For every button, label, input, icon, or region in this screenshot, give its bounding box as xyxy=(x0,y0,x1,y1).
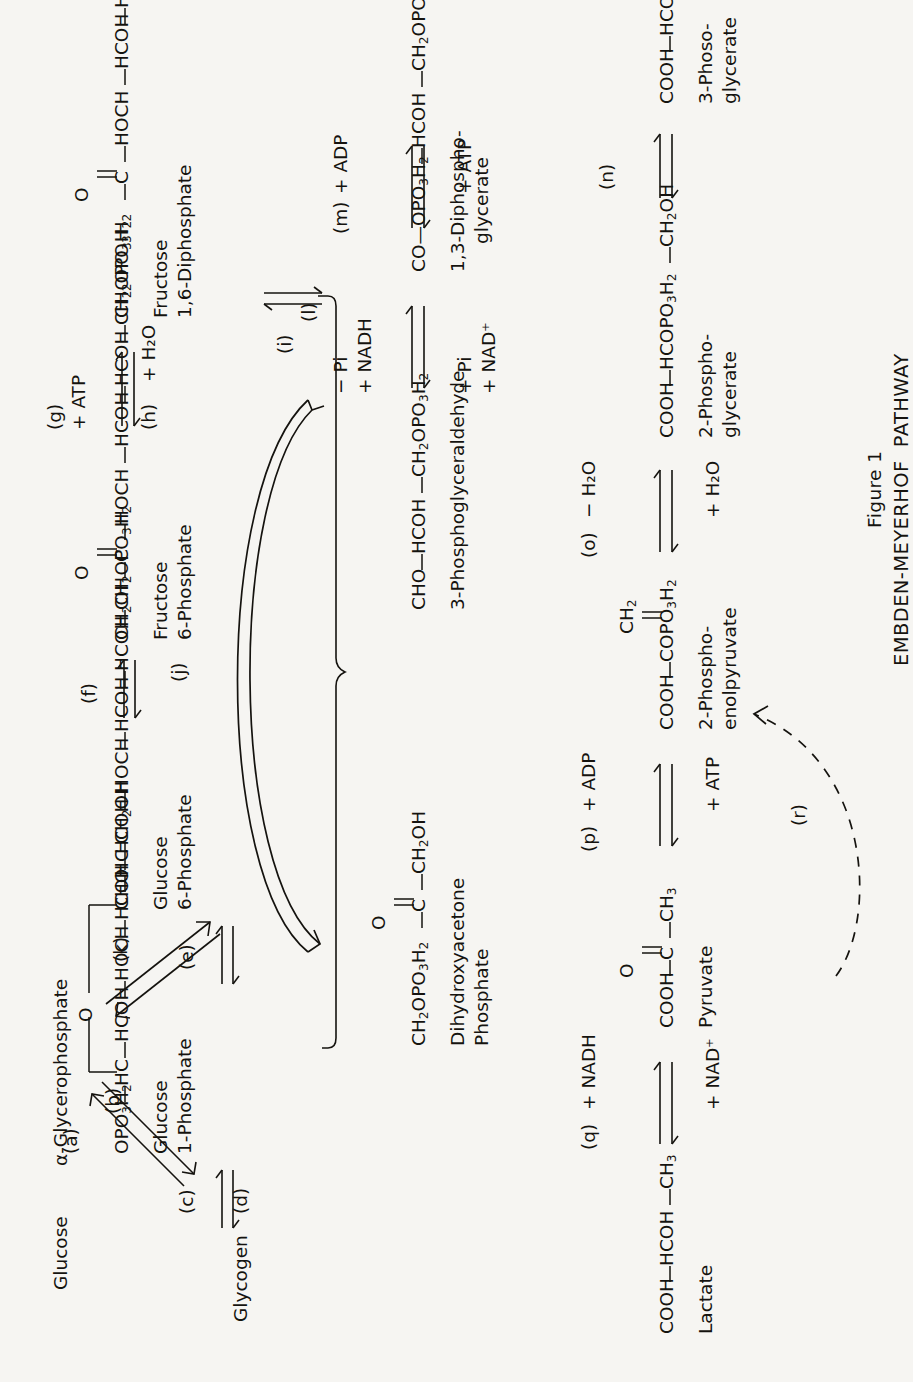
compound-label-g3p-line1: 3-Phosphoglyceraldehyde xyxy=(449,371,468,610)
reaction-label-b: (b) xyxy=(104,1088,123,1114)
group-copo3h2: COPO3H2 xyxy=(658,579,679,662)
reaction-label-d: (d) xyxy=(232,1188,251,1214)
reaction-cofactor-o-bottom: + H₂O xyxy=(704,461,723,518)
compound-label-pg2-line2: glycerate xyxy=(721,351,740,438)
reaction-label-n: (n) xyxy=(598,164,617,190)
compound-label-glycogen: Glycogen xyxy=(232,1235,251,1322)
reaction-label-h: (h) xyxy=(140,404,159,430)
reaction-label-j: (j) xyxy=(170,662,189,682)
reaction-cofactor-l-bottom1: + Pi xyxy=(456,357,475,394)
group-ch2oh: CH2OH xyxy=(410,811,431,874)
arrow-a-b-diagonal xyxy=(62,1058,192,1198)
reaction-cofactor-q-top: + NADH xyxy=(580,1034,599,1110)
arrow-p xyxy=(640,756,700,852)
compound-label-dhap-line1: Dihydroxyacetone xyxy=(449,878,468,1046)
arrow-r-dashed xyxy=(700,670,870,990)
compound-label-pg3-line2: glycerate xyxy=(721,17,740,104)
arrow-n xyxy=(640,124,700,204)
group-cooh: COOH xyxy=(658,972,677,1028)
compound-label-dpg-line2: glycerate xyxy=(473,157,492,244)
figure-number: Figure 1 xyxy=(866,451,885,528)
compound-label-pg3-line1: 3-Phoso- xyxy=(697,23,716,104)
arrow-k-diagonal xyxy=(92,900,232,1030)
group-hcoh: HCOH xyxy=(658,1211,677,1266)
reaction-label-r: (r) xyxy=(790,804,809,826)
group-carbonyl-o: O xyxy=(73,187,92,202)
reaction-label-m: (m) xyxy=(332,202,351,234)
figure-title: EMBDEN-MEYERHOF PATHWAY xyxy=(892,354,912,667)
arrow-l xyxy=(392,298,452,394)
group-ch2: CH2 xyxy=(618,599,639,634)
group-carbonyl-o: O xyxy=(618,963,637,978)
group-ch3: CH3 xyxy=(658,887,679,922)
group-hcoh: HCOH xyxy=(410,499,429,554)
arrow-o xyxy=(640,462,700,558)
group-cooh: COOH xyxy=(658,382,677,438)
reaction-cofactor-o-top: − H₂O xyxy=(580,461,599,518)
group-c: C xyxy=(410,899,429,912)
group-hcopo3h2: HCOPO3H2 xyxy=(658,273,679,370)
compound-label-alpha-glycerophosphate: α-Glycerophosphate xyxy=(52,979,71,1166)
group-ch2opo3h2: CH2OPO3H2 xyxy=(410,942,431,1046)
group-cooh: COOH xyxy=(658,48,677,104)
group-cho: CHO xyxy=(410,569,429,610)
reaction-label-f: (f) xyxy=(80,683,99,704)
reaction-cofactor-l-top2: + NADH xyxy=(356,318,375,394)
compound-label-fructose6p-line1: Fructose xyxy=(152,562,171,640)
group-hoch-1: HOCH xyxy=(113,738,132,793)
group-carbonyl-o: O xyxy=(73,565,92,580)
reaction-label-q: (q) xyxy=(580,1124,599,1150)
reaction-cofactor-m-top: + ADP xyxy=(332,135,351,194)
group-cooh: COOH xyxy=(658,674,677,730)
reaction-label-o: (o) xyxy=(580,532,599,558)
group-hcoh-1: HCOH xyxy=(113,799,132,854)
compound-label-glucose6p-line1: Glucose xyxy=(152,836,171,910)
group-hcoh: HCOH xyxy=(658,0,677,36)
compound-label-dhap-line2: Phosphate xyxy=(473,949,492,1046)
compound-label-lactate: Lactate xyxy=(697,1265,716,1334)
bond-tail-fdp xyxy=(95,0,155,318)
arrow-m xyxy=(392,138,452,234)
reaction-cofactor-h-bottom: + H₂O xyxy=(140,325,159,382)
reaction-label-i: (i) xyxy=(276,334,295,354)
arrow-q xyxy=(640,1054,700,1150)
arrow-j-curved xyxy=(200,362,330,962)
reaction-label-l: (l) xyxy=(300,302,319,322)
reaction-cofactor-g-top: + ATP xyxy=(70,375,89,430)
reaction-label-k: (k) xyxy=(112,937,131,962)
reaction-label-p: (p) xyxy=(580,826,599,852)
compound-label-fdp-line1: Fructose xyxy=(152,240,171,318)
reaction-cofactor-p-top: + ADP xyxy=(580,753,599,812)
compound-label-glucose6p-line2: 6-Phosphate xyxy=(176,794,195,910)
group-ch3: CH3 xyxy=(658,1154,679,1189)
compound-label-glucose: Glucose xyxy=(52,1216,71,1290)
group-cooh: COOH xyxy=(658,1278,677,1334)
reaction-label-g: (g) xyxy=(46,404,65,430)
compound-label-pg2-line1: 2-Phospho- xyxy=(697,334,716,438)
compound-label-fdp-line2: 1,6-Diphosphate xyxy=(176,165,195,318)
group-carbonyl-o: O xyxy=(370,915,389,930)
reaction-cofactor-l-top1: − Pi xyxy=(332,357,351,394)
reaction-cofactor-m-bottom: + ATP xyxy=(456,139,475,194)
reaction-cofactor-q-bottom: + NAD⁺ xyxy=(704,1038,723,1110)
group-ch2opo3h2: CH2OPO3H2 xyxy=(410,0,431,71)
compound-label-fructose6p-line2: 6-Phosphate xyxy=(176,524,195,640)
group-c: C xyxy=(658,947,677,960)
arrow-f xyxy=(110,652,156,722)
reaction-cofactor-l-bottom2: + NAD⁺ xyxy=(480,322,499,394)
